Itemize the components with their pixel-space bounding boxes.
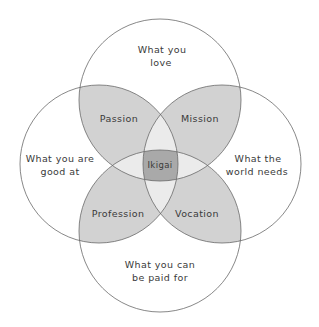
label-bottom-line1: What you can	[125, 259, 195, 270]
label-ikigai: Ikigai	[147, 160, 172, 170]
label-mission: Mission	[181, 113, 219, 124]
label-right-line1: What the	[235, 153, 282, 164]
label-left-line1: What you are	[26, 153, 95, 164]
label-top-line2: love	[150, 57, 172, 68]
label-bottom-line2: be paid for	[132, 272, 188, 283]
label-profession: Profession	[92, 208, 145, 219]
label-top-line1: What you	[138, 44, 187, 55]
label-left-line2: good at	[40, 166, 79, 177]
label-passion: Passion	[100, 113, 138, 124]
label-right-line2: world needs	[226, 166, 288, 177]
ikigai-venn-diagram: What you love What you are good at What …	[0, 0, 319, 327]
label-vocation: Vocation	[175, 208, 219, 219]
